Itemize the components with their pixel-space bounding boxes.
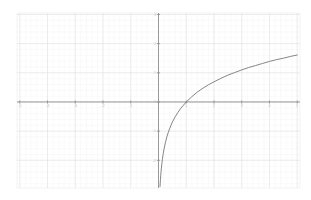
svg-text:2: 2	[154, 42, 156, 46]
svg-text:1: 1	[154, 71, 156, 75]
svg-text:0: 0	[154, 100, 156, 104]
graph-container: -5-4-3-2-112345-2-10123	[0, 0, 311, 200]
svg-text:-3: -3	[74, 104, 77, 108]
svg-text:5: 5	[296, 104, 298, 108]
svg-text:-2: -2	[153, 159, 156, 163]
svg-text:-2: -2	[102, 104, 105, 108]
svg-text:-5: -5	[18, 104, 21, 108]
svg-text:-1: -1	[129, 104, 132, 108]
svg-text:-4: -4	[46, 104, 49, 108]
svg-text:3: 3	[241, 104, 243, 108]
svg-text:4: 4	[269, 104, 271, 108]
cartesian-plot: -5-4-3-2-112345-2-10123	[0, 0, 311, 200]
svg-text:-1: -1	[153, 129, 156, 133]
svg-text:2: 2	[213, 104, 215, 108]
svg-text:3: 3	[154, 13, 156, 17]
svg-text:1: 1	[185, 104, 187, 108]
